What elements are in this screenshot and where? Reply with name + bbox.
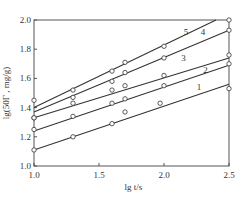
data-point-3 (110, 88, 114, 92)
y-tick-label: 2.0 (20, 15, 32, 25)
series-label-5: 5 (184, 27, 189, 37)
data-point-5 (71, 88, 75, 92)
data-point-1 (123, 110, 127, 114)
x-tick-label: 2.5 (223, 170, 235, 180)
data-point-5 (123, 60, 127, 64)
series-label-4: 4 (201, 27, 206, 37)
x-tick-label: 1.5 (93, 170, 105, 180)
data-point-4 (110, 79, 114, 83)
y-tick-label: 1.2 (20, 132, 31, 142)
data-point-4 (71, 95, 75, 99)
data-point-5 (227, 18, 231, 22)
series-label-2: 2 (203, 65, 208, 75)
series-label-1: 1 (197, 82, 202, 92)
series-label-3: 3 (181, 53, 186, 63)
data-point-5 (32, 98, 36, 102)
data-point-4 (227, 28, 231, 32)
data-point-3 (71, 101, 75, 105)
data-point-2 (110, 101, 114, 105)
data-point-2 (162, 84, 166, 88)
data-point-1 (110, 121, 114, 125)
data-point-1 (158, 101, 162, 105)
chart: 1.01.52.02.51.01.21.41.61.82.012345lg t/… (0, 0, 247, 197)
data-point-3 (162, 73, 166, 77)
data-point-2 (71, 114, 75, 118)
y-axis-label: lg(50Γ , mg/g) (1, 67, 11, 119)
data-point-3 (227, 53, 231, 57)
data-point-5 (110, 69, 114, 73)
data-point-1 (227, 86, 231, 90)
series-line-2 (34, 65, 229, 131)
data-point-4 (32, 116, 36, 120)
data-point-2 (123, 97, 127, 101)
x-tick-label: 2.0 (158, 170, 170, 180)
y-tick-label: 1.0 (20, 161, 32, 171)
x-axis-label: lg t/s (125, 182, 143, 192)
y-tick-label: 1.4 (20, 103, 32, 113)
data-point-2 (32, 127, 36, 131)
data-point-3 (123, 84, 127, 88)
data-point-4 (123, 70, 127, 74)
y-tick-label: 1.6 (20, 73, 32, 83)
data-point-1 (71, 135, 75, 139)
data-point-1 (32, 148, 36, 152)
x-tick-label: 1.0 (28, 170, 40, 180)
data-point-5 (162, 44, 166, 48)
data-point-4 (162, 56, 166, 60)
series-line-4 (34, 30, 229, 112)
y-tick-label: 1.8 (20, 44, 32, 54)
data-point-2 (227, 62, 231, 66)
